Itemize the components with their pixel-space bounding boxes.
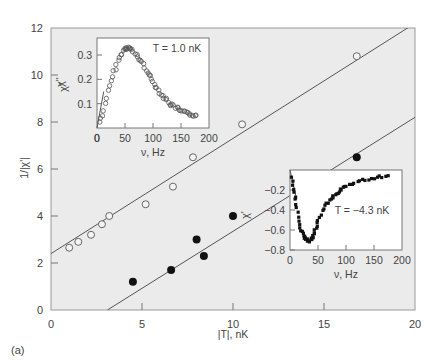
data-point-open xyxy=(169,183,176,190)
inset-y-tick-label: −0.6 xyxy=(264,224,285,236)
data-point-filled xyxy=(129,278,137,286)
inset-data-point xyxy=(373,177,376,180)
annotation-chi-prime: χ' xyxy=(239,211,251,219)
inset-data-point xyxy=(316,225,319,228)
inset-data-point xyxy=(298,223,301,226)
x-tick-label: 5 xyxy=(139,318,145,330)
inset-x-tick-label: 200 xyxy=(393,254,411,266)
inset-x-tick-label: 150 xyxy=(365,254,383,266)
inset-data-point xyxy=(387,174,390,177)
inset-y-tick-label: 0.3 xyxy=(77,49,92,61)
inset-data-point xyxy=(297,216,300,219)
y-tick-label: 10 xyxy=(31,69,43,81)
data-point-open xyxy=(189,154,196,161)
inset-data-point xyxy=(297,211,300,214)
y-tick-label: 6 xyxy=(37,163,43,175)
data-point-filled xyxy=(229,212,237,220)
inset-data-point xyxy=(292,191,295,194)
inset-x-tick-label: 200 xyxy=(200,132,218,144)
inset-data-point xyxy=(290,176,293,179)
inset-y-tick-label: 0.1 xyxy=(77,98,92,110)
inset-data-point xyxy=(293,197,296,200)
y-tick-label: 0 xyxy=(37,304,43,316)
data-point-open xyxy=(88,231,95,238)
data-point-filled xyxy=(167,266,175,274)
inset-x-tick-label: 50 xyxy=(312,254,324,266)
inset-x-tick-label: 100 xyxy=(144,132,162,144)
x-tick-label: 20 xyxy=(409,318,421,330)
data-point-open xyxy=(239,121,246,128)
data-point-open xyxy=(98,221,105,228)
inset-data-point xyxy=(291,180,294,183)
inset-data-point xyxy=(291,184,294,187)
inset-data-point xyxy=(340,188,343,191)
inset-y-tick-label: −0.2 xyxy=(264,184,285,196)
inset-y-tick-label: −0.4 xyxy=(264,204,285,216)
inset-data-point xyxy=(298,226,301,229)
x-tick-label: 0 xyxy=(48,318,54,330)
chart-figure: 02468101205101520|T|, nK1/|χ'|0501001502… xyxy=(0,0,443,363)
inset-data-point xyxy=(294,203,297,206)
data-point-open xyxy=(66,244,73,251)
inset-data-point xyxy=(344,185,347,188)
inset-x-tick-label: 0 xyxy=(94,132,100,144)
inset-data-point xyxy=(380,176,383,179)
panel-label: (a) xyxy=(11,344,24,356)
y-tick-label: 2 xyxy=(37,257,43,269)
inset-data-point xyxy=(313,231,316,234)
y-tick-label: 4 xyxy=(37,210,43,222)
inset-data-point xyxy=(348,183,351,186)
inset-data-point xyxy=(358,179,361,182)
inset-data-point xyxy=(327,202,330,205)
data-point-open xyxy=(142,201,149,208)
inset-y-tick-label: 0.2 xyxy=(77,73,92,85)
annotation-chi-double-prime: χ'' xyxy=(54,77,66,87)
inset-data-point xyxy=(363,179,366,182)
inset-x-tick-label: 0 xyxy=(287,254,293,266)
inset-data-point xyxy=(331,194,334,197)
inset-data-point xyxy=(316,219,319,222)
inset-temperature-label: T = −4.3 nK xyxy=(335,204,390,216)
data-point-open xyxy=(75,238,82,245)
inset-x-tick-label: 100 xyxy=(337,254,355,266)
x-axis-label: |T|, nK xyxy=(218,328,249,340)
data-point-filled xyxy=(200,252,208,260)
data-point-filled xyxy=(353,153,361,161)
inset-data-point xyxy=(370,177,373,180)
x-tick-label: 15 xyxy=(318,318,330,330)
data-point-open xyxy=(106,213,113,220)
inset-data-point xyxy=(352,182,355,185)
inset-data-point xyxy=(322,207,325,210)
inset-temperature-label: T = 1.0 nK xyxy=(153,42,202,54)
inset-data-point xyxy=(295,206,298,209)
inset-data-point xyxy=(320,214,323,217)
inset-y-tick-label: −0.8 xyxy=(264,244,285,256)
inset-x-axis-label: ν, Hz xyxy=(141,146,165,158)
y-tick-label: 12 xyxy=(31,22,43,34)
y-tick-label: 8 xyxy=(37,116,43,128)
inset-x-tick-label: 50 xyxy=(119,132,131,144)
data-point-filled xyxy=(193,236,201,244)
inset-x-axis-label: ν, Hz xyxy=(334,268,358,280)
data-point-open xyxy=(353,53,360,60)
inset-x-tick-label: 150 xyxy=(172,132,190,144)
inset-data-point xyxy=(297,220,300,223)
y-axis-label: 1/|χ'| xyxy=(18,157,30,179)
